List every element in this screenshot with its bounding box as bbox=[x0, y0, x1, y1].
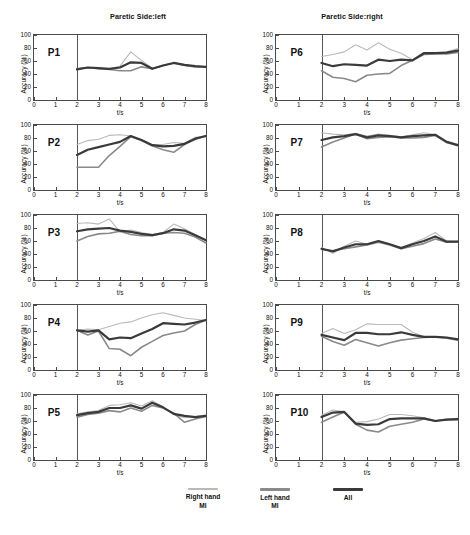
y-tick-label: 60 bbox=[266, 148, 273, 154]
x-tick-label: 2 bbox=[75, 372, 79, 378]
x-tick-label: 6 bbox=[161, 372, 165, 378]
y-tick-label: 0 bbox=[27, 367, 31, 373]
column-title-left: Paretic Side:left bbox=[110, 12, 166, 21]
plot-area-p6: 020406080100012345678t/sP6 bbox=[275, 34, 459, 101]
y-tick-label: 100 bbox=[262, 392, 273, 398]
legend-item-right-hand-mi: Right hand MI bbox=[168, 488, 238, 510]
x-tick-label: 6 bbox=[411, 192, 415, 198]
x-tick-label: 1 bbox=[54, 462, 58, 468]
series-line-all bbox=[322, 412, 459, 425]
x-tick-label: 5 bbox=[388, 372, 392, 378]
curve-layer bbox=[276, 35, 458, 100]
y-tick-label: 0 bbox=[269, 457, 273, 463]
x-tick-label: 0 bbox=[274, 282, 278, 288]
x-tick-label: 1 bbox=[297, 372, 301, 378]
x-tick-label: 4 bbox=[118, 102, 122, 108]
x-tick-label: 7 bbox=[183, 192, 187, 198]
y-tick-label: 40 bbox=[266, 251, 273, 257]
y-tick-label: 80 bbox=[24, 405, 31, 411]
plot-area-p9: 020406080100012345678t/sP9 bbox=[275, 304, 459, 371]
panel-p10: Accuracy (%)020406080100012345678t/sP10 bbox=[248, 390, 463, 478]
x-tick-label: 6 bbox=[411, 462, 415, 468]
x-tick-label: 4 bbox=[118, 192, 122, 198]
curve-layer bbox=[276, 305, 458, 370]
column-title-right: Paretic Side:right bbox=[321, 12, 382, 21]
series-line-right-hand-mi bbox=[322, 43, 459, 60]
x-tick-label: 4 bbox=[118, 462, 122, 468]
x-tick-label: 0 bbox=[32, 372, 36, 378]
x-tick-label: 7 bbox=[183, 372, 187, 378]
legend-label-left-hand-mi-line2: MI bbox=[240, 502, 310, 511]
x-tick-label: 2 bbox=[320, 462, 324, 468]
curve-layer bbox=[34, 35, 206, 100]
x-tick-mark bbox=[206, 97, 207, 100]
x-tick-label: 5 bbox=[140, 372, 144, 378]
x-tick-label: 7 bbox=[183, 462, 187, 468]
y-tick-label: 0 bbox=[269, 367, 273, 373]
x-tick-label: 1 bbox=[297, 282, 301, 288]
x-axis-label: t/s bbox=[364, 199, 371, 206]
y-tick-label: 0 bbox=[27, 97, 31, 103]
x-tick-mark bbox=[458, 97, 459, 100]
plot-area-p5: 020406080100012345678t/sP5 bbox=[33, 394, 207, 461]
panel-p8: Accuracy (%)020406080100012345678t/sP8 bbox=[248, 210, 463, 298]
y-tick-label: 20 bbox=[266, 264, 273, 270]
y-tick-label: 20 bbox=[24, 174, 31, 180]
y-tick-label: 60 bbox=[266, 58, 273, 64]
panel-p1: Accuracy (%)020406080100012345678t/sP1 bbox=[6, 30, 211, 118]
plot-area-p7: 020406080100012345678t/sP7 bbox=[275, 124, 459, 191]
x-tick-mark bbox=[458, 277, 459, 280]
x-tick-label: 1 bbox=[297, 102, 301, 108]
x-tick-label: 1 bbox=[54, 282, 58, 288]
x-tick-label: 7 bbox=[433, 462, 437, 468]
curve-layer bbox=[276, 215, 458, 280]
x-tick-label: 4 bbox=[118, 282, 122, 288]
x-tick-label: 1 bbox=[297, 462, 301, 468]
series-line-left-hand-mi bbox=[322, 53, 459, 82]
x-tick-label: 2 bbox=[320, 372, 324, 378]
y-tick-label: 100 bbox=[262, 212, 273, 218]
x-tick-label: 5 bbox=[388, 462, 392, 468]
x-axis-label: t/s bbox=[117, 379, 124, 386]
x-tick-label: 4 bbox=[365, 282, 369, 288]
x-tick-mark bbox=[458, 187, 459, 190]
y-tick-label: 20 bbox=[24, 354, 31, 360]
series-line-all bbox=[322, 236, 459, 251]
y-tick-label: 80 bbox=[24, 135, 31, 141]
y-tick-label: 0 bbox=[27, 457, 31, 463]
x-tick-label: 4 bbox=[365, 192, 369, 198]
x-tick-label: 0 bbox=[274, 102, 278, 108]
legend-label-right-hand-mi-line1: Right hand bbox=[168, 493, 238, 502]
y-tick-label: 60 bbox=[266, 238, 273, 244]
legend-swatch-all bbox=[333, 488, 363, 491]
y-tick-label: 40 bbox=[24, 251, 31, 257]
x-tick-label: 0 bbox=[32, 102, 36, 108]
y-tick-label: 60 bbox=[24, 58, 31, 64]
y-tick-label: 100 bbox=[262, 32, 273, 38]
legend-label-all-line1: All bbox=[313, 494, 383, 503]
y-tick-label: 0 bbox=[27, 187, 31, 193]
x-tick-label: 4 bbox=[365, 372, 369, 378]
x-tick-label: 5 bbox=[388, 282, 392, 288]
y-tick-label: 60 bbox=[24, 238, 31, 244]
x-tick-label: 2 bbox=[320, 192, 324, 198]
x-axis-label: t/s bbox=[117, 109, 124, 116]
x-tick-label: 2 bbox=[75, 102, 79, 108]
y-tick-label: 20 bbox=[266, 354, 273, 360]
x-tick-label: 3 bbox=[342, 192, 346, 198]
y-tick-label: 20 bbox=[24, 84, 31, 90]
x-tick-label: 8 bbox=[456, 282, 460, 288]
y-tick-label: 80 bbox=[24, 225, 31, 231]
series-line-right-hand-mi bbox=[322, 233, 459, 254]
x-tick-mark bbox=[206, 367, 207, 370]
curve-layer bbox=[34, 215, 206, 280]
x-axis-label: t/s bbox=[364, 379, 371, 386]
x-tick-label: 6 bbox=[161, 282, 165, 288]
figure-root: Paretic Side:left Paretic Side:right Acc… bbox=[0, 0, 470, 535]
y-tick-label: 40 bbox=[266, 71, 273, 77]
y-tick-label: 40 bbox=[24, 161, 31, 167]
y-tick-label: 40 bbox=[266, 431, 273, 437]
y-tick-label: 40 bbox=[24, 341, 31, 347]
series-line-right-hand-mi bbox=[77, 313, 206, 331]
x-tick-label: 8 bbox=[456, 192, 460, 198]
